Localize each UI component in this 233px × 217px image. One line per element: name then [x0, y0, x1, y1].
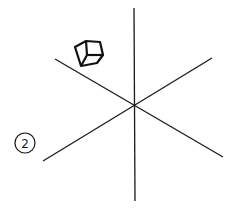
step-number-badge: 2 [15, 133, 35, 153]
cube-icon [75, 41, 103, 66]
isometric-axes-diagram: 2 [0, 0, 233, 217]
diagonal-axis-ascending [43, 58, 212, 161]
axes-group [43, 8, 223, 201]
diagonal-axis-descending [55, 59, 223, 157]
step-number-text: 2 [21, 137, 29, 151]
